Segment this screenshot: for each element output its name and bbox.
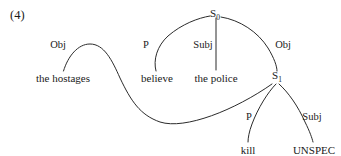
relation-label-obj-s1: Obj <box>275 40 291 51</box>
terminal-the-hostages: the hostages <box>36 73 90 84</box>
terminal-kill: kill <box>241 145 256 156</box>
terminal-unspec: UNSPEC <box>293 145 335 156</box>
example-number: (4) <box>10 9 25 22</box>
relation-label-p-believe: P <box>143 40 149 51</box>
node-s1-subscript: 1 <box>278 75 282 84</box>
relation-label-obj-hostages: Obj <box>50 40 66 51</box>
node-s0-subscript: 0 <box>216 13 220 22</box>
relation-label-p-kill: P <box>246 112 252 123</box>
relation-label-subj-unspec: Subj <box>302 112 321 123</box>
syntax-diagram: (4) S0 S1 the hostages believe the polic… <box>0 0 341 156</box>
relation-label-subj-police: Subj <box>193 40 212 51</box>
terminal-believe: believe <box>141 73 173 84</box>
node-s1: S1 <box>272 70 282 81</box>
arc-p-kill <box>248 84 276 142</box>
terminal-the-police: the police <box>194 73 237 84</box>
node-s0: S0 <box>210 8 220 19</box>
arc-obj-s1 <box>221 17 277 71</box>
